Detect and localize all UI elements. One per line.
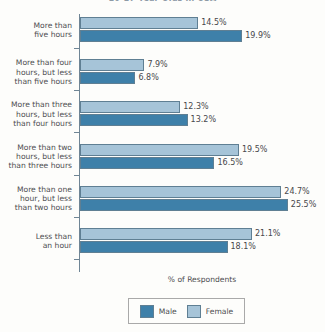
bar-male: [80, 241, 228, 253]
legend-item-male: Male: [140, 305, 177, 318]
axis-tick: [74, 90, 79, 91]
bar-row: 21.1%: [80, 228, 320, 240]
bar-row: 16.5%: [80, 157, 320, 169]
axis-tick: [74, 132, 79, 133]
chart-title: 10-17 Year Olds in USA: [0, 0, 325, 2]
bar-row: 14.5%: [80, 17, 320, 29]
bar-male: [80, 199, 288, 211]
bar-group: More than threehours, but lessthan four …: [0, 101, 325, 128]
category-label: More thanfive hours: [0, 21, 72, 40]
bar-group: More than onehour, but lessthan two hour…: [0, 186, 325, 213]
bar-female: [80, 59, 144, 71]
legend-label-male: Male: [159, 307, 177, 316]
bar-value-label: 24.7%: [284, 187, 309, 197]
bar-row: 7.9%: [80, 59, 320, 71]
bar-group: More than twohours, but lessthan three h…: [0, 144, 325, 171]
legend-item-female: Female: [187, 305, 233, 318]
bar-row: 6.8%: [80, 72, 320, 84]
axis-tick: [74, 175, 79, 176]
bar-value-label: 14.5%: [201, 18, 226, 28]
bar-male: [80, 30, 242, 42]
legend-swatch-female-icon: [187, 305, 201, 318]
category-label: More than threehours, but lessthan four …: [0, 100, 72, 128]
bar-value-label: 13.2%: [191, 115, 216, 125]
bar-female: [80, 101, 180, 113]
bar-female: [80, 228, 252, 240]
x-axis-label: % of Respondents: [79, 275, 325, 284]
category-label: More than fourhours, but lessthan five h…: [0, 58, 72, 86]
bar-row: 19.5%: [80, 144, 320, 156]
legend-swatch-male-icon: [140, 305, 154, 318]
bar-value-label: 19.5%: [242, 145, 267, 155]
bar-row: 18.1%: [80, 241, 320, 253]
bar-row: 12.3%: [80, 101, 320, 113]
bar-male: [80, 72, 135, 84]
chart-legend: Male Female: [128, 298, 245, 324]
legend-label-female: Female: [206, 307, 233, 316]
axis-tick: [74, 259, 79, 260]
category-label: Less thanan hour: [0, 232, 72, 251]
bar-group: More than fourhours, but lessthan five h…: [0, 59, 325, 86]
bar-value-label: 25.5%: [291, 200, 316, 210]
bar-group: More thanfive hours14.5%19.9%: [0, 17, 325, 44]
category-label: More than onehour, but lessthan two hour…: [0, 185, 72, 213]
bar-value-label: 19.9%: [245, 31, 270, 41]
bar-row: 13.2%: [80, 114, 320, 126]
bar-row: 24.7%: [80, 186, 320, 198]
bar-value-label: 16.5%: [217, 158, 242, 168]
bar-chart: 10-17 Year Olds in USA More thanfive hou…: [0, 0, 325, 332]
bar-group: Less thanan hour21.1%18.1%: [0, 228, 325, 255]
bar-male: [80, 114, 188, 126]
bar-female: [80, 17, 198, 29]
bar-value-label: 12.3%: [183, 102, 208, 112]
bar-female: [80, 144, 239, 156]
bar-value-label: 18.1%: [231, 242, 256, 252]
bar-value-label: 6.8%: [138, 73, 158, 83]
bar-value-label: 21.1%: [255, 229, 280, 239]
category-label: More than twohours, but lessthan three h…: [0, 143, 72, 171]
axis-tick: [74, 217, 79, 218]
axis-tick: [74, 48, 79, 49]
bar-row: 25.5%: [80, 199, 320, 211]
bar-male: [80, 157, 214, 169]
bar-row: 19.9%: [80, 30, 320, 42]
bar-female: [80, 186, 281, 198]
bar-value-label: 7.9%: [147, 60, 167, 70]
plot-area: More thanfive hours14.5%19.9%More than f…: [0, 14, 325, 272]
